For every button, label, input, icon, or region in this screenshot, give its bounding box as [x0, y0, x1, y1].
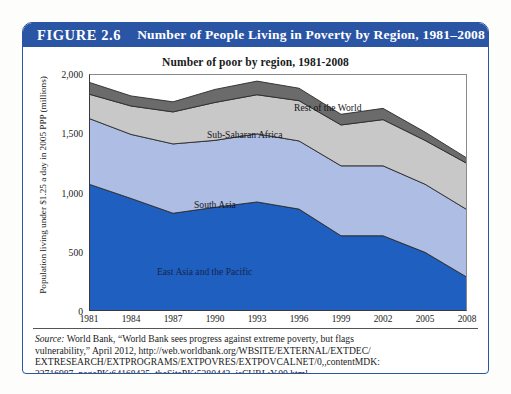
chart-area: Population living under $1.25 a day in 2… — [23, 68, 489, 316]
y-axis-ticks: 05001,0001,5002,000 — [31, 74, 83, 311]
page-background: FIGURE 2.6 Number of People Living in Po… — [0, 0, 511, 394]
source-line-1: World Bank, “World Bank sees progress ag… — [64, 333, 353, 344]
y-tick-2000: 2,000 — [35, 69, 83, 80]
x-tick-2002: 2002 — [374, 314, 393, 324]
x-tick-2008: 2008 — [458, 314, 477, 324]
x-tick-1990: 1990 — [206, 314, 225, 324]
source-line-3: EXTRESEARCH/EXTPROGRAMS/EXTPOVRES/EXTPOV… — [35, 356, 476, 368]
x-tick-1984: 1984 — [122, 314, 141, 324]
x-tick-1981: 1981 — [80, 314, 99, 324]
x-tick-2005: 2005 — [416, 314, 435, 324]
source-note: Source: World Bank, “World Bank sees pro… — [35, 333, 476, 374]
band-label-sub-saharan-africa: Sub-Saharan Africa — [207, 129, 282, 140]
plot-area: Rest of the WorldSub-Saharan AfricaSouth… — [89, 74, 467, 311]
band-label-rest-of-the-world: Rest of the World — [294, 102, 362, 113]
chart-title: Number of poor by region, 1981-2008 — [23, 56, 488, 68]
figure-number: FIGURE 2.6 — [37, 27, 121, 44]
x-tick-1993: 1993 — [248, 314, 267, 324]
figure-header-bar: FIGURE 2.6 Number of People Living in Po… — [23, 23, 488, 47]
band-label-east-asia-and-the-pacific: East Asia and the Pacific — [157, 266, 252, 277]
y-tick-0: 0 — [35, 306, 83, 317]
source-divider — [33, 328, 478, 329]
source-line-4: 22716987~pagePK:64168435~theSitePK:52804… — [35, 368, 476, 374]
x-tick-1996: 1996 — [290, 314, 309, 324]
band-label-south-asia: South Asia — [194, 199, 236, 210]
source-line-2: vulnerability,” April 2012, http://web.w… — [35, 345, 476, 357]
y-tick-1500: 1,500 — [35, 128, 83, 139]
y-tick-1000: 1,000 — [35, 187, 83, 198]
x-tick-1999: 1999 — [332, 314, 351, 324]
y-tick-500: 500 — [35, 246, 83, 257]
x-tick-1987: 1987 — [164, 314, 183, 324]
stacked-area-svg — [89, 74, 467, 311]
figure-title: Number of People Living in Poverty by Re… — [137, 27, 485, 43]
source-label: Source: — [35, 333, 64, 344]
figure-card: FIGURE 2.6 Number of People Living in Po… — [22, 22, 489, 374]
